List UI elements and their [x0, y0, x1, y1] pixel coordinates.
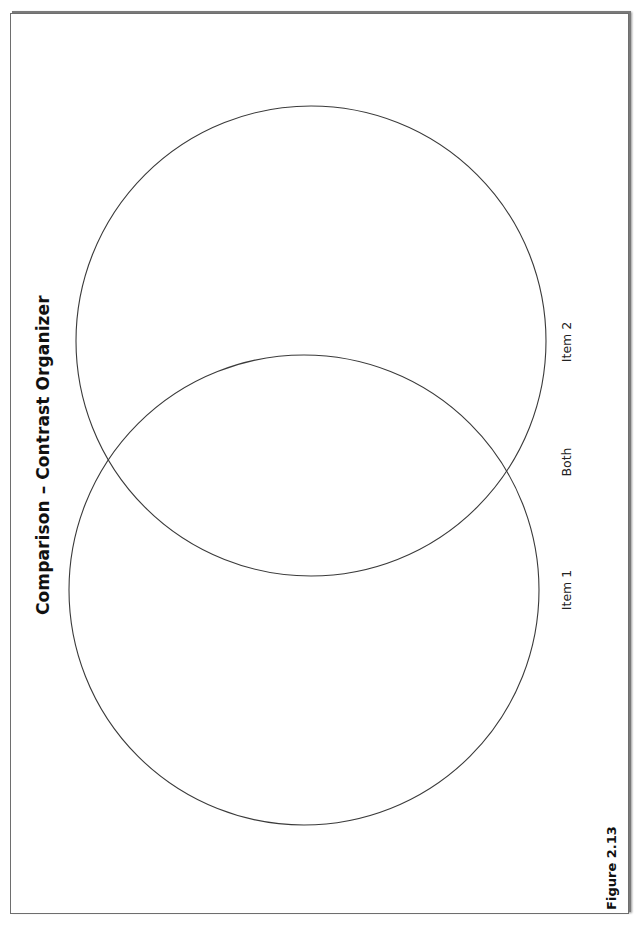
- venn-circle-item-2: [76, 106, 546, 576]
- venn-diagram: [0, 0, 639, 933]
- label-item-1: Item 1: [558, 550, 576, 630]
- venn-circle-item-1: [69, 355, 539, 825]
- figure-caption: Figure 2.13: [603, 818, 621, 918]
- label-both: Both: [558, 422, 576, 502]
- diagram-title: Comparison – Contrast Organizer: [32, 315, 54, 615]
- label-item-2: Item 2: [558, 302, 576, 382]
